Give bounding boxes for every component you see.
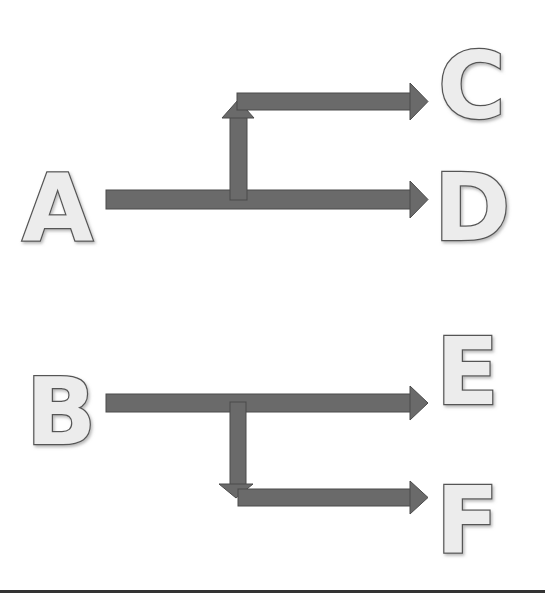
node-d-label: D [434,155,510,262]
node-e-label: E [436,319,499,426]
diagram-svg: A C D B E F [0,0,545,593]
arrow-a-to-c [222,83,428,200]
group-b: B E F [26,319,499,575]
arrowhead-icon [410,181,428,218]
arrow-b-to-e [106,386,428,420]
node-a-label: A [22,155,93,262]
node-f-label: F [436,468,499,575]
arrowhead-icon [410,386,428,420]
arrow-a-to-d [106,181,428,218]
arrowhead-icon [410,83,428,120]
arrowhead-icon [410,481,428,514]
diagram-canvas: A C D B E F [0,0,545,593]
node-b-label: B [26,359,96,466]
node-c-label: C [438,33,506,140]
arrow-b-to-f [219,402,428,514]
group-a: A C D [22,33,510,262]
